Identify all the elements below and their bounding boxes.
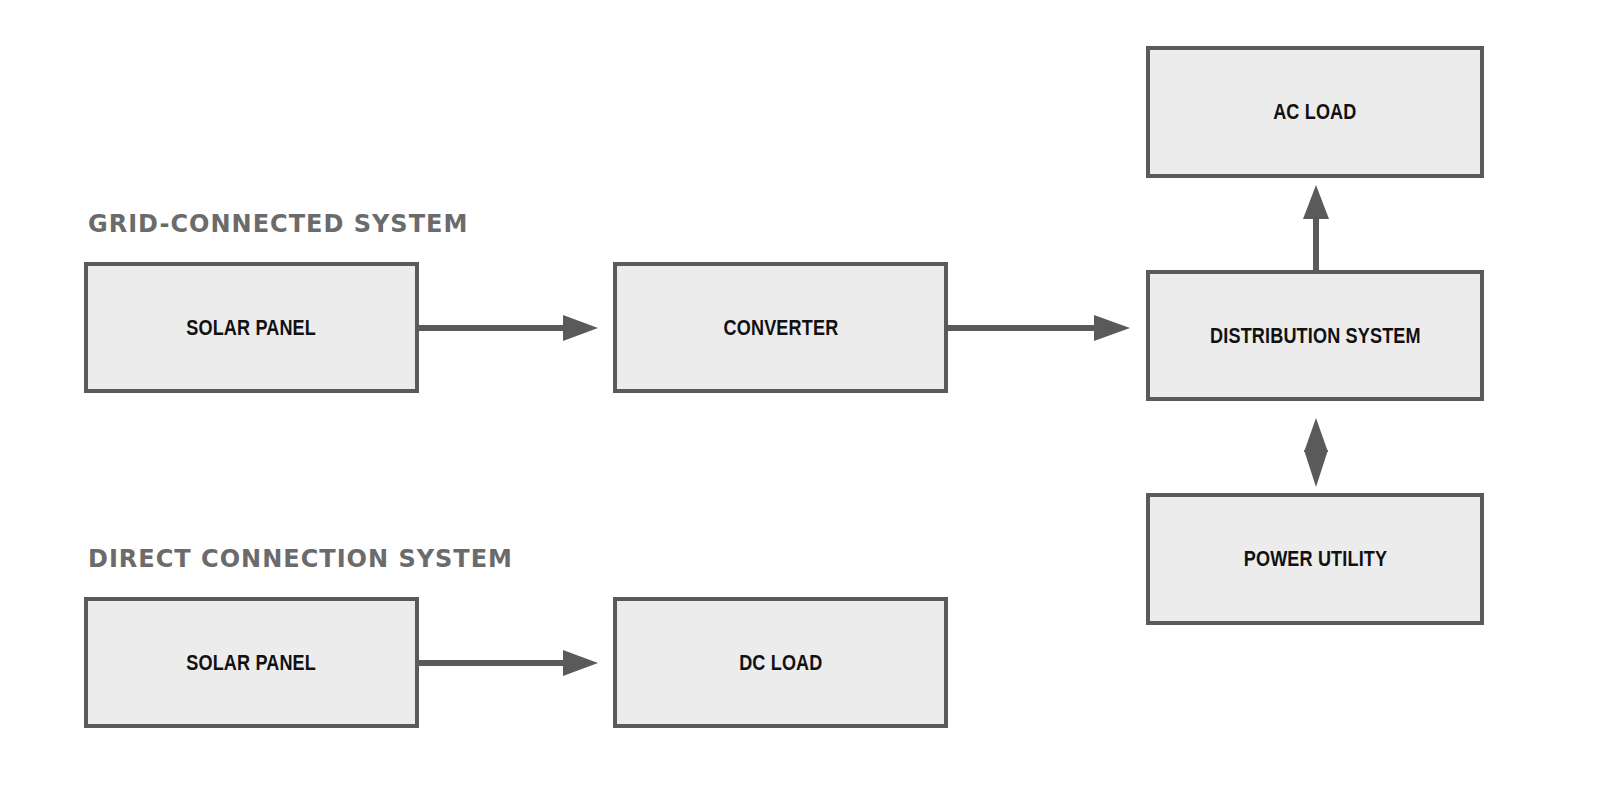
connector-layer: [0, 0, 1616, 797]
arrow-converter-to-distribution: [948, 315, 1130, 341]
arrow-solar-to-converter: [419, 315, 598, 341]
arrow-distribution-power-utility-bidirectional: [1304, 418, 1328, 487]
arrow-solar-to-dc-load: [419, 650, 598, 676]
arrow-distribution-to-ac-load: [1303, 185, 1329, 270]
